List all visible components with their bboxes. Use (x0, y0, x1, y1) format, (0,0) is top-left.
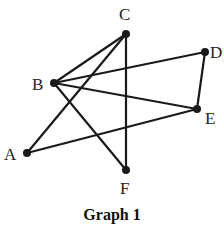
graph-caption: Graph 1 (83, 206, 140, 224)
edge-A-E (27, 109, 197, 153)
graph-diagram: ABCDEF Graph 1 (0, 0, 224, 226)
node-D (201, 48, 209, 56)
node-E (193, 105, 201, 113)
edges (27, 34, 205, 170)
node-label-C: C (119, 5, 130, 24)
node-A (23, 149, 31, 157)
nodes (23, 30, 209, 174)
edge-B-F (54, 83, 126, 170)
node-C (122, 30, 130, 38)
node-labels: ABCDEF (4, 5, 222, 198)
node-label-D: D (210, 43, 222, 62)
node-label-B: B (32, 75, 43, 94)
edge-D-E (197, 52, 205, 109)
node-B (50, 79, 58, 87)
node-F (122, 166, 130, 174)
node-label-E: E (205, 109, 215, 128)
node-label-F: F (120, 179, 129, 198)
node-label-A: A (4, 145, 17, 164)
